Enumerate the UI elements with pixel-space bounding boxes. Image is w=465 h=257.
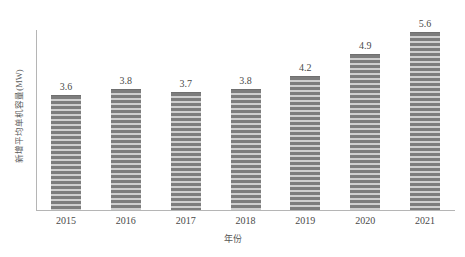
x-tick-label: 2016 bbox=[96, 214, 156, 228]
bar-value-label: 4.9 bbox=[359, 40, 372, 51]
bar-slot: 3.7 bbox=[156, 30, 216, 210]
bar[interactable] bbox=[111, 89, 141, 210]
bar[interactable] bbox=[290, 76, 320, 210]
bar-series: 3.6 3.8 3.7 3.8 4.2 4.9 bbox=[36, 30, 455, 210]
x-axis-tick-labels: 2015 2016 2017 2018 2019 2020 2021 bbox=[36, 214, 455, 228]
bar[interactable] bbox=[410, 32, 440, 210]
bar-value-label: 3.8 bbox=[239, 75, 252, 86]
plot-area: 3.6 3.8 3.7 3.8 4.2 4.9 bbox=[36, 30, 455, 211]
y-axis-title-label: 新增平均单机容量(MW) bbox=[12, 69, 24, 162]
x-tick-label: 2017 bbox=[156, 214, 216, 228]
bar-slot: 5.6 bbox=[395, 30, 455, 210]
bar-slot: 3.8 bbox=[216, 30, 276, 210]
bar[interactable] bbox=[350, 54, 380, 210]
bar-slot: 4.2 bbox=[275, 30, 335, 210]
bar-value-label: 4.2 bbox=[299, 62, 312, 73]
bar[interactable] bbox=[51, 95, 81, 210]
bar[interactable] bbox=[231, 89, 261, 210]
bar-value-label: 3.7 bbox=[179, 78, 192, 89]
x-axis-title: 年份 bbox=[0, 232, 465, 245]
bar-value-label: 3.6 bbox=[60, 81, 73, 92]
bar-slot: 3.8 bbox=[96, 30, 156, 210]
bar[interactable] bbox=[171, 92, 201, 210]
x-tick-label: 2018 bbox=[216, 214, 276, 228]
x-tick-label: 2020 bbox=[335, 214, 395, 228]
y-axis-title: 新增平均单机容量(MW) bbox=[10, 68, 26, 164]
x-tick-label: 2015 bbox=[36, 214, 96, 228]
x-tick-label: 2019 bbox=[275, 214, 335, 228]
bar-chart: 新增平均单机容量(MW) 3.6 3.8 3.7 3.8 4 bbox=[0, 0, 465, 257]
bar-value-label: 3.8 bbox=[120, 75, 133, 86]
x-tick-label: 2021 bbox=[395, 214, 455, 228]
x-axis-line bbox=[36, 210, 455, 211]
bar-slot: 4.9 bbox=[335, 30, 395, 210]
bar-slot: 3.6 bbox=[36, 30, 96, 210]
bar-value-label: 5.6 bbox=[419, 18, 432, 29]
